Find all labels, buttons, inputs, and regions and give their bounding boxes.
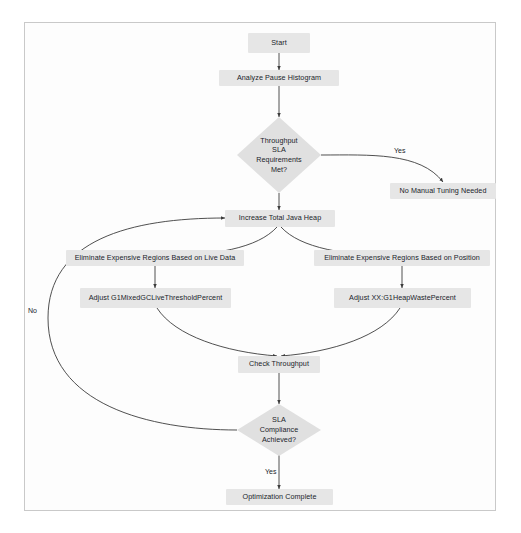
node-increase-total-java-heap[interactable]: Increase Total Java Heap xyxy=(225,210,335,227)
node-optimization-complete[interactable]: Optimization Complete xyxy=(226,489,333,505)
node-no-manual-tuning-needed[interactable]: No Manual Tuning Needed xyxy=(390,183,496,199)
node-start[interactable]: Start xyxy=(248,33,310,53)
edge-label-throughput-yes: Yes xyxy=(394,147,406,154)
node-analyze-pause-histogram[interactable]: Analyze Pause Histogram xyxy=(219,70,339,86)
node-optimization-complete-label: Optimization Complete xyxy=(243,493,317,501)
node-eliminate-regions-position-label: Eliminate Expensive Regions Based on Pos… xyxy=(324,254,480,262)
node-eliminate-regions-position[interactable]: Eliminate Expensive Regions Based on Pos… xyxy=(314,250,490,266)
node-eliminate-regions-live-data[interactable]: Eliminate Expensive Regions Based on Liv… xyxy=(66,250,244,266)
node-check-throughput-label: Check Throughput xyxy=(249,360,309,368)
node-sla-compliance-decision-label: SLA Compliance Achieved? xyxy=(260,415,299,444)
edge-label-sla-yes: Yes xyxy=(265,468,277,475)
node-adjust-g1mixedgclivethresholdpercent[interactable]: Adjust G1MixedGCLiveThresholdPercent xyxy=(80,288,231,308)
node-analyze-pause-histogram-label: Analyze Pause Histogram xyxy=(237,74,321,82)
node-start-label: Start xyxy=(271,39,286,47)
flowchart-canvas: Start Analyze Pause Histogram Throughput… xyxy=(0,0,521,533)
node-adjust-g1mixedgclivethresholdpercent-label: Adjust G1MixedGCLiveThresholdPercent xyxy=(89,294,223,302)
node-increase-total-java-heap-label: Increase Total Java Heap xyxy=(239,214,321,222)
node-sla-compliance-decision[interactable]: SLA Compliance Achieved? xyxy=(237,404,321,456)
node-throughput-sla-decision[interactable]: Throughput SLA Requirements Met? xyxy=(237,117,321,193)
edge-label-sla-no: No xyxy=(28,307,37,314)
node-check-throughput[interactable]: Check Throughput xyxy=(238,356,320,373)
node-adjust-g1heapwastepercent-label: Adjust XX:G1HeapWastePercent xyxy=(349,294,456,302)
node-eliminate-regions-live-data-label: Eliminate Expensive Regions Based on Liv… xyxy=(75,254,236,262)
node-adjust-g1heapwastepercent[interactable]: Adjust XX:G1HeapWastePercent xyxy=(334,288,471,308)
node-throughput-sla-decision-label: Throughput SLA Requirements Met? xyxy=(256,136,301,175)
node-no-manual-tuning-needed-label: No Manual Tuning Needed xyxy=(400,187,487,195)
